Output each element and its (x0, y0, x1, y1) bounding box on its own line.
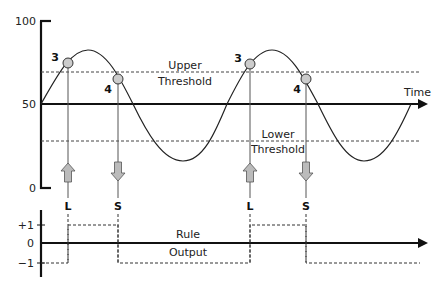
oscillator-curve (41, 50, 411, 161)
svg-text:4: 4 (104, 83, 112, 96)
down-arrow-icon (111, 162, 125, 181)
marker-4b: 4 (293, 74, 311, 96)
down-arrow-icon (299, 162, 313, 181)
svg-text:3: 3 (234, 52, 242, 65)
rule-output-label-2: Output (169, 246, 208, 259)
svg-text:4: 4 (293, 83, 301, 96)
marker-4a: 4 (104, 74, 123, 96)
signal-label-S1: S (114, 200, 122, 213)
marker-3b: 3 (234, 52, 255, 69)
signal-label-S2: S (302, 200, 310, 213)
lower-threshold-label-2: Threshold (250, 143, 305, 156)
lower-tick-0: 0 (27, 237, 34, 250)
rule-output-label-1: Rule (176, 228, 200, 241)
svg-text:3: 3 (51, 51, 59, 64)
oscillator-rule-diagram: 100 50 0 Time Upper Threshold Lower Thre… (0, 0, 445, 289)
y-tick-100: 100 (15, 15, 36, 28)
lower-tick-minus1: −1 (18, 257, 34, 270)
signal-label-L2: L (246, 200, 253, 213)
signal-label-L1: L (64, 200, 71, 213)
lower-tick-plus1: +1 (18, 219, 34, 232)
time-axis-label: Time (403, 86, 431, 99)
lower-threshold-label-1: Lower (262, 128, 295, 141)
y-tick-50: 50 (22, 98, 36, 111)
up-arrow-icon (61, 163, 75, 182)
upper-threshold-label-2: Threshold (157, 75, 212, 88)
lower-y-axis: +1 0 −1 (18, 210, 45, 277)
y-tick-0: 0 (29, 182, 36, 195)
upper-threshold-label-1: Upper (168, 59, 202, 72)
marker-3a: 3 (51, 51, 73, 68)
up-arrow-icon (243, 163, 257, 182)
